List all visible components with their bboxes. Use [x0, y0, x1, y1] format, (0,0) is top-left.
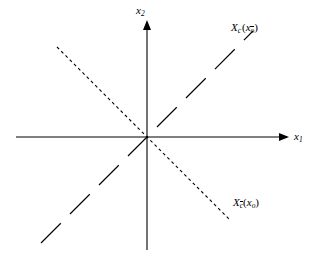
curve-label-xcbar: Xc(xo) — [233, 197, 259, 208]
figure-canvas: x2 x1 Xc (xo) Xc(xo) — [0, 0, 319, 267]
x-axis-label-sub: 1 — [299, 135, 303, 144]
curve-label-xc: Xc (xo) — [231, 22, 258, 33]
curve-label-xcbar-paren-close: ) — [255, 196, 259, 208]
diagram-svg — [0, 0, 319, 267]
x-axis — [16, 133, 289, 141]
y-axis-label: x2 — [136, 5, 145, 16]
curve-label-xcbar-arg-sub: o — [252, 201, 256, 210]
y-axis — [143, 20, 151, 250]
curve-label-xcbar-arg-base: x — [247, 196, 252, 208]
curve-label-xc-sub: c — [238, 26, 241, 35]
curve-label-xc-base: X — [231, 21, 238, 33]
x-axis-label: x1 — [294, 131, 303, 142]
curve-label-xc-arg-sub-overbar: o — [251, 27, 255, 34]
y-axis-arrowhead-icon — [143, 20, 151, 30]
curve-label-xcbar-sub-overbar: c — [240, 202, 243, 209]
curve-label-xc-paren-close: ) — [254, 21, 258, 33]
curve-xcbar-fine-dashed-line — [57, 47, 230, 220]
y-axis-label-sub: 2 — [141, 9, 145, 18]
curve-label-xc-arg-sub: o — [251, 26, 255, 35]
x-axis-arrowhead-icon — [279, 133, 289, 141]
curve-label-xcbar-sub: c — [240, 201, 243, 210]
